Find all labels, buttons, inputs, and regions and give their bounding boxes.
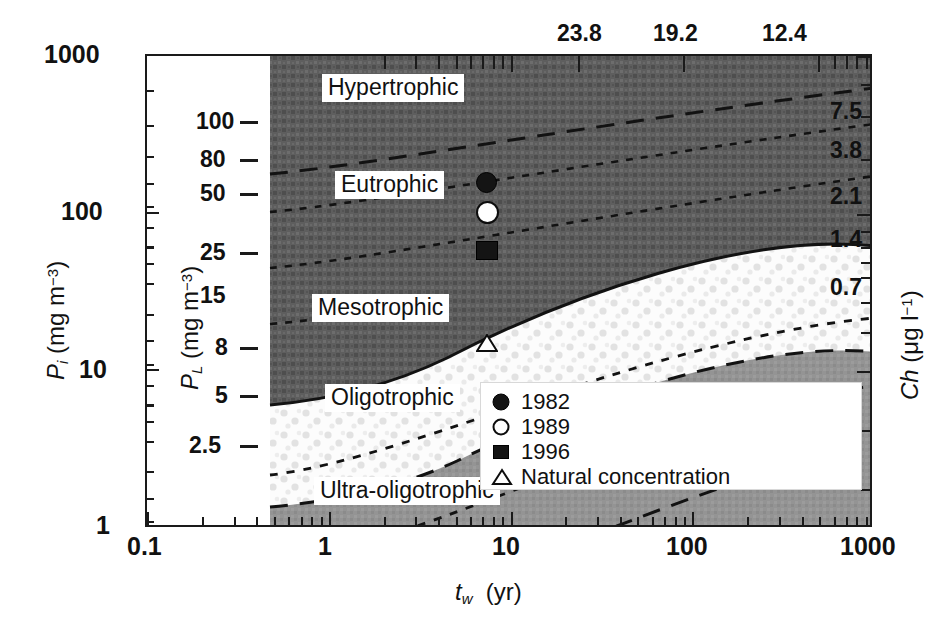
legend-symbol-filled-circle (491, 392, 521, 412)
xtick-minor (274, 517, 276, 525)
y-axis-outer-title-close: ) (42, 261, 69, 269)
x-axis-title: tw (yr) (455, 580, 522, 606)
y-axis-outer-title-subscript: i (54, 361, 71, 364)
ytick-pi-minor (145, 263, 154, 265)
legend-symbol-open-triangle (491, 467, 521, 487)
y-axis-outer-title-unit-open: (mg m (42, 286, 69, 354)
xtick-minor (256, 517, 258, 525)
legend-symbol-filled-square (491, 442, 521, 462)
ytick-pi-minor (145, 364, 154, 366)
ytick-right-minor (861, 302, 870, 304)
xtick-label-10: 10 (492, 534, 520, 559)
legend-label-1996: 1996 (521, 441, 570, 463)
y-axis-outer-title-unit (42, 354, 69, 361)
y-axis-inner-title-close: ) (176, 266, 203, 274)
ytick-right-major (857, 371, 870, 373)
xtick-top-minor (415, 56, 417, 69)
data-point-1996[interactable] (476, 241, 498, 260)
xtick-minor (470, 517, 472, 525)
ytick-right-minor (861, 116, 870, 118)
xtick-top-minor (438, 56, 440, 69)
ytick-right-minor (861, 231, 870, 233)
xtick-minor (684, 517, 686, 525)
legend-label-natural-concentration: Natural concentration (521, 466, 730, 488)
ytick-pi-minor (145, 156, 154, 158)
ytick-label-ch-7.5: 7.5 (830, 100, 862, 123)
y-axis-outer-title-sup: −3 (44, 269, 61, 286)
ytick-stub-pl-50 (240, 193, 258, 196)
xtick-minor (802, 517, 804, 525)
xtick-minor (288, 517, 290, 525)
ytick-right-minor (861, 332, 870, 334)
ytick-pi-100 (145, 212, 159, 214)
ytick-stub-pl-25 (240, 252, 258, 255)
ytick-pi-minor (145, 340, 154, 342)
xtick-minor (819, 517, 821, 525)
legend-row: Natural concentration (491, 464, 851, 489)
ytick-right-minor (861, 159, 870, 161)
xtick-top-minor (493, 56, 495, 69)
ytick-label-pi-1: 1 (96, 513, 110, 538)
xtick-minor (675, 517, 677, 525)
legend-label-1989: 1989 (521, 416, 570, 438)
xtick-top-minor (502, 56, 504, 69)
filled-square-icon (491, 442, 511, 462)
xtick-minor (834, 517, 836, 525)
ytick-stub-pl-2.5 (240, 445, 258, 448)
ytick-right-major (857, 214, 870, 216)
ytick-pi-minor (145, 421, 154, 423)
data-point-natural-concentration[interactable] (476, 334, 498, 352)
ytick-label-pl-80: 80 (200, 148, 226, 171)
ytick-label-pl-5: 5 (215, 384, 228, 407)
xtick-1000 (872, 512, 873, 525)
ytick-pi-10 (145, 369, 159, 371)
ytick-pi-minor (145, 441, 154, 443)
ytick-label-pl-8: 8 (215, 336, 228, 359)
xtick-minor (456, 517, 458, 525)
open-triangle-icon (491, 467, 513, 487)
xtick-minor (637, 517, 639, 525)
xtick-top-minor (846, 56, 848, 69)
ytick-right-minor (861, 262, 870, 264)
data-point-1989[interactable] (476, 201, 499, 224)
y-axis-inner-title-unit-open: (mg m (176, 291, 203, 359)
xtick-top-minor (384, 56, 386, 69)
xtick-minor (664, 517, 666, 525)
xtick-minor (234, 517, 236, 525)
ytick-label-ch-2.1: 2.1 (830, 185, 862, 208)
ytick-stub-pl-80 (240, 159, 258, 162)
xtick-100 (692, 512, 694, 525)
y-axis-inner-title-space (176, 359, 203, 366)
xtick-minor (482, 517, 484, 525)
xtick-top-19.2 (683, 56, 685, 72)
region-label-ultra-oligotrophic: Ultra-oligotrophic (314, 477, 500, 505)
xtick-minor (301, 517, 303, 525)
y-axis-inner-title-sup: −3 (178, 274, 195, 291)
xtick-label-top-23.8: 23.8 (557, 22, 602, 45)
xtick-minor (202, 517, 204, 525)
data-point-1982[interactable] (476, 172, 497, 193)
ytick-pi-minor (145, 206, 154, 208)
legend-symbol-open-circle (491, 417, 521, 437)
region-label-eutrophic: Eutrophic (335, 171, 444, 199)
xtick-top-major (511, 56, 513, 72)
ytick-right-minor (861, 489, 870, 491)
ytick-right-minor (861, 84, 870, 86)
y-axis-right-title-sup: −1 (898, 298, 915, 315)
region-label-mesotrophic: Mesotrophic (312, 294, 449, 322)
ytick-right-minor (861, 277, 870, 279)
y-axis-right-title-symbol: Ch (896, 369, 923, 400)
x-axis-title-space (473, 578, 486, 605)
xtick-minor (856, 517, 858, 525)
xtick-top-minor (834, 56, 836, 69)
x-axis-title-unit: (yr) (486, 578, 522, 605)
ytick-label-pi-1000: 1000 (44, 42, 100, 67)
ytick-pi-minor (145, 385, 154, 387)
xtick-minor (779, 517, 781, 525)
region-label-oligotrophic: Oligotrophic (325, 384, 460, 412)
ytick-stub-pl-5 (240, 395, 258, 398)
ytick-stub-pl-8 (240, 347, 258, 350)
ytick-pi-minor (145, 314, 154, 316)
legend-row: 1996 (491, 439, 851, 464)
ytick-pi-minor (145, 125, 154, 127)
